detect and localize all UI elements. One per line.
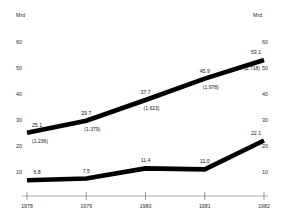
point-subvalue-upper-4: (2.718) bbox=[244, 65, 260, 71]
point-value-lower-1: 7.5 bbox=[83, 168, 90, 174]
point-value-lower-3: 11.0 bbox=[200, 158, 210, 164]
point-value-upper-4: 53.1 bbox=[251, 49, 261, 55]
point-subvalue-upper-3: (1.978) bbox=[203, 84, 219, 90]
point-value-upper-1: 29.7 bbox=[81, 110, 91, 116]
point-subvalue-upper-2: (1.623) bbox=[144, 105, 160, 111]
point-value-lower-2: 11.4 bbox=[141, 157, 151, 163]
point-value-lower-0: 6.8 bbox=[33, 169, 40, 175]
point-subvalue-upper-0: (1.236) bbox=[32, 138, 48, 144]
series-line-upper bbox=[27, 60, 264, 133]
point-subvalue-upper-1: (1.379) bbox=[84, 126, 100, 132]
plot-area bbox=[0, 0, 283, 217]
point-value-upper-2: 37.7 bbox=[140, 89, 150, 95]
chart-container: Mrd Mrd 605040302010 605040302010 197819… bbox=[0, 0, 283, 217]
point-value-upper-3: 45.9 bbox=[200, 68, 210, 74]
point-value-upper-0: 25.1 bbox=[32, 122, 42, 128]
point-value-lower-4: 22.1 bbox=[251, 130, 261, 136]
